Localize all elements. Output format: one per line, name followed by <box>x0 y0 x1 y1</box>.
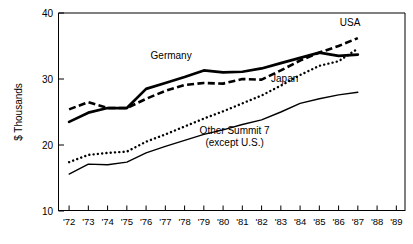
x-tick-label-75: '75 <box>121 216 133 227</box>
series-label-japan: Japan <box>271 73 298 84</box>
series-label-germany: Germany <box>151 50 192 61</box>
x-tick-label-73: '73 <box>82 216 94 227</box>
x-tick-label-84: '84 <box>294 216 306 227</box>
x-tick-label-82: '82 <box>255 216 267 227</box>
x-tick-label-86: '86 <box>332 216 344 227</box>
x-tick-label-83: '83 <box>275 216 287 227</box>
x-tick-label-76: '76 <box>140 216 152 227</box>
x-tick-label-81: '81 <box>236 216 248 227</box>
x-tick-label-87: '87 <box>352 216 364 227</box>
x-tick-label-72: '72 <box>63 216 75 227</box>
y-tick-label-10: 10 <box>42 206 54 217</box>
x-tick-label-78: '78 <box>178 216 190 227</box>
chart-background <box>0 0 413 244</box>
series-label-usa: USA <box>340 17 361 28</box>
y-tick-label-30: 30 <box>42 74 54 85</box>
x-tick-label-80: '80 <box>217 216 229 227</box>
x-tick-label-89: '89 <box>390 216 402 227</box>
y-axis-title: $ Thousands <box>13 83 24 141</box>
series-label-other-summit-7-line2: (except U.S.) <box>205 137 263 148</box>
y-tick-label-20: 20 <box>42 140 54 151</box>
line-chart-svg: 40 30 20 10 $ Thousands '72'73'74'75'76'… <box>0 0 413 244</box>
chart-container: 40 30 20 10 $ Thousands '72'73'74'75'76'… <box>0 0 413 244</box>
x-tick-label-88: '88 <box>371 216 383 227</box>
x-tick-label-79: '79 <box>198 216 210 227</box>
series-label-other-summit-7-line1: Other Summit 7 <box>200 125 270 136</box>
x-tick-label-85: '85 <box>313 216 325 227</box>
x-tick-label-77: '77 <box>159 216 171 227</box>
y-tick-label-40: 40 <box>42 8 54 19</box>
x-tick-label-74: '74 <box>101 216 113 227</box>
